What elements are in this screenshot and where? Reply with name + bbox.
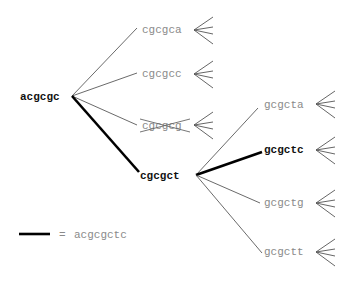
edge-root-cgcgcg — [72, 96, 137, 125]
fan-icon — [316, 137, 335, 164]
fan-icon — [316, 190, 335, 217]
node-cgcgct: cgcgct — [140, 170, 180, 182]
edge-root-cgcgca — [72, 28, 137, 96]
fan-icon — [194, 112, 213, 139]
edge-cgcgct-gcgctc-highlighted — [196, 152, 262, 175]
edge-cgcgct-gcgctt — [196, 175, 262, 253]
fan-icon — [194, 61, 213, 88]
edge-root-cgcgcc — [72, 73, 137, 96]
edge-root-cgcgct-highlighted — [72, 96, 139, 172]
fan-icon — [316, 91, 335, 118]
node-gcgctg: gcgctg — [264, 197, 304, 209]
node-cgcgcc: cgcgcc — [142, 68, 182, 80]
node-cgcgca: cgcgca — [142, 24, 182, 36]
legend-text: acgcgctc — [74, 229, 127, 241]
node-gcgctt: gcgctt — [264, 246, 304, 258]
node-gcgcta: gcgcta — [264, 99, 304, 111]
legend: = acgcgctc — [19, 229, 127, 241]
fan-icon — [194, 17, 213, 44]
search-tree-diagram: acgcgc cgcgca cgcgcc cgcgcg cgcgct gcgct… — [0, 0, 352, 282]
edge-cgcgct-gcgctg — [196, 175, 260, 203]
fan-icon — [316, 239, 335, 266]
node-root: acgcgc — [20, 91, 60, 103]
node-gcgctc: gcgctc — [264, 144, 304, 156]
legend-equals: = — [59, 229, 66, 241]
